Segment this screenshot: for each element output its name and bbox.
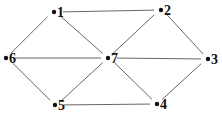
- edge-1-2: [63, 10, 154, 12]
- node-4: 4: [155, 97, 167, 112]
- node-label: 2: [164, 3, 171, 18]
- edge-2-7: [113, 15, 154, 54]
- node-label: 5: [58, 98, 65, 113]
- node-dot-icon: [4, 56, 8, 60]
- edge-7-3: [117, 58, 201, 59]
- node-label: 1: [57, 5, 64, 20]
- node-dot-icon: [52, 10, 56, 14]
- node-label: 3: [211, 52, 218, 67]
- edge-1-7: [61, 17, 103, 54]
- edge-1-6: [11, 17, 47, 53]
- node-label: 4: [160, 97, 167, 112]
- graph-diagram: 1234567: [0, 0, 222, 113]
- node-label: 7: [111, 51, 118, 66]
- node-3: 3: [206, 52, 218, 67]
- edge-5-7: [62, 63, 103, 101]
- node-dot-icon: [106, 56, 110, 60]
- edge-3-4: [162, 64, 201, 100]
- node-label: 6: [9, 51, 16, 66]
- node-1: 1: [52, 5, 64, 20]
- node-dot-icon: [206, 57, 210, 61]
- edge-6-5: [12, 63, 49, 100]
- edge-7-4: [115, 63, 152, 99]
- node-dot-icon: [159, 8, 163, 12]
- node-6: 6: [4, 51, 16, 66]
- node-dot-icon: [155, 102, 159, 106]
- node-5: 5: [53, 98, 65, 113]
- edge-5-4: [64, 104, 150, 105]
- edge-2-3: [167, 15, 203, 54]
- node-dot-icon: [53, 103, 57, 107]
- node-2: 2: [159, 3, 171, 18]
- node-7: 7: [106, 51, 118, 66]
